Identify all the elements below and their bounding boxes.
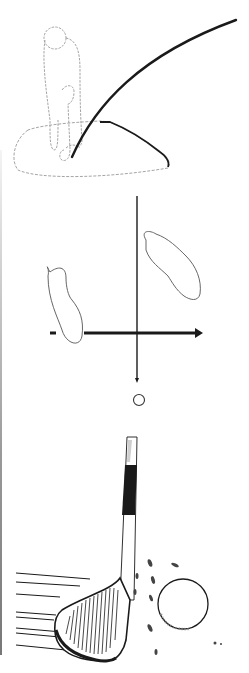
illustration-canvas <box>0 0 249 673</box>
wedge-impact-panel <box>16 437 222 661</box>
illustration-svg <box>0 0 249 673</box>
stance-diagram-panel <box>47 196 203 406</box>
down-arrowhead <box>135 378 139 383</box>
target-arrowhead <box>195 328 203 338</box>
shaft-ferrule-band <box>122 465 137 515</box>
golfer-figure <box>44 27 82 161</box>
ball-trajectory <box>72 20 236 157</box>
ball-marker <box>134 395 145 406</box>
mound-shadow-edge <box>100 122 169 167</box>
golf-ball <box>158 579 208 629</box>
golfer-swing-panel <box>14 20 236 177</box>
sand-mound <box>14 121 169 177</box>
right-foot-outline <box>144 232 200 300</box>
